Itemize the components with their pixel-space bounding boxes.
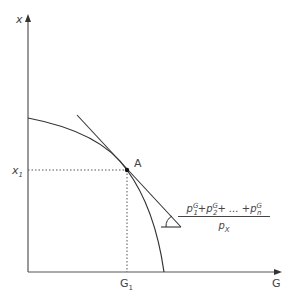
slope-denominator: pX	[178, 217, 270, 231]
point-a-marker	[125, 168, 129, 172]
y-axis-arrow-icon	[25, 14, 31, 22]
x-tick-base: G	[120, 277, 129, 290]
y-tick-x1: x1	[12, 165, 23, 176]
x-axis-label: G	[272, 278, 281, 289]
tangent-line	[77, 115, 181, 227]
y-axis-label: x	[16, 14, 23, 25]
slope-fraction: pG1+pG2+ ... +pGn pX	[178, 203, 270, 231]
y-tick-sub: 1	[19, 171, 23, 179]
ppf-diagram	[0, 0, 295, 303]
slope-numerator: pG1+pG2+ ... +pGn	[178, 203, 270, 217]
x-tick-g1: G1	[120, 278, 133, 289]
x-axis-arrow-icon	[274, 269, 282, 275]
point-a-label: A	[134, 158, 142, 169]
ppf-curve	[28, 118, 164, 272]
slope-angle-arc	[166, 216, 172, 227]
x-tick-sub: 1	[129, 284, 133, 292]
